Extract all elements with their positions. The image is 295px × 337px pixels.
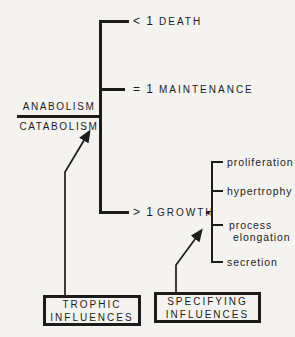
trophic-influences-line1: TROPHIC [63, 298, 122, 311]
death-label: DEATH [159, 16, 202, 27]
specifying-influences-line1: SPECIFYING [167, 295, 248, 308]
outcome-secretion: secretion [227, 256, 278, 268]
maintenance-ratio: = 1 [133, 82, 155, 96]
outcome-proliferation: proliferation [227, 156, 294, 168]
anabolism-catabolism-diagram: < 1 DEATH = 1 MAINTENANCE > 1 GROWTH ◄ A… [0, 0, 295, 337]
bracket-tick-hypertrophy [211, 190, 223, 192]
bracket-tick-proliferation [211, 161, 223, 163]
outcome-hypertrophy: hypertrophy [227, 185, 292, 197]
bracket-tick-process-elongation [211, 224, 223, 226]
specifying-influences-line2: INFLUENCES [166, 308, 249, 321]
death-branch-line [99, 20, 129, 23]
growth-marker: ◄ [204, 209, 211, 216]
growth-ratio: > 1 [133, 205, 155, 219]
trophic-arrow [65, 132, 89, 295]
specifying-influences-box: SPECIFYING INFLUENCES [154, 292, 261, 323]
outcome-elongation: elongation [233, 231, 290, 243]
maintenance-branch-line [99, 88, 125, 91]
death-ratio: < 1 [133, 14, 155, 28]
growth-branch-line [99, 211, 129, 214]
trophic-influences-line2: INFLUENCES [50, 311, 133, 324]
fraction-numerator: ANABOLISM [14, 101, 104, 112]
bracket-tick-secretion [211, 261, 223, 263]
fraction-bar [17, 115, 102, 118]
maintenance-label: MAINTENANCE [159, 84, 254, 95]
growth-outcomes-bracket [211, 161, 213, 263]
trophic-influences-box: TROPHIC INFLUENCES [43, 295, 141, 326]
outcome-process: process [229, 219, 272, 231]
connector-arrows [0, 0, 295, 337]
fraction-denominator: CATABOLISM [14, 121, 104, 132]
specifying-arrow [176, 231, 201, 292]
